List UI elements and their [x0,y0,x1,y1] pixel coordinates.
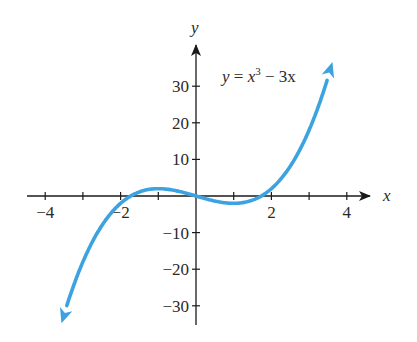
y-axis-label: y [189,18,199,37]
x-axis: −4−224 x [27,186,391,222]
cubic-function-graph: −4−224 x 302010−10−20−30 y y = x3 − 3x [0,0,417,342]
equation-rest: − 3x [261,67,297,86]
y-tick-label: −30 [162,297,189,316]
equation-lhs: y [220,67,230,86]
y-tick-label: −20 [162,260,189,279]
y-axis: 302010−10−20−30 y [162,18,200,325]
y-tick-label: 30 [172,77,189,96]
curve-arrowhead-start-icon [60,307,72,323]
x-tick-label: 4 [343,203,352,222]
curve-series [60,62,334,323]
x-axis-label: x [382,186,391,205]
y-tick-label: 10 [172,150,189,169]
curve-arrowhead-end-icon [322,62,334,78]
x-axis-tick-labels: −4−224 [36,203,351,222]
y-tick-label: −10 [162,224,189,243]
y-tick-label: 20 [172,114,189,133]
equation-equals: = [230,67,248,86]
equation-label: y = x3 − 3x [220,65,296,86]
cubic-curve [67,80,327,305]
x-tick-label: −4 [36,203,55,222]
x-tick-label: 2 [267,203,276,222]
x-tick-label: −2 [112,203,130,222]
